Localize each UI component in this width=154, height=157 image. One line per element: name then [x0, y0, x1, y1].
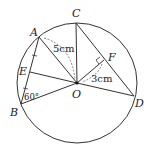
label-f: F — [107, 51, 116, 64]
measure-oa: 5cm — [53, 43, 75, 54]
tick-eb — [23, 88, 28, 89]
label-a: A — [29, 26, 38, 39]
label-o: O — [72, 88, 81, 101]
segment-oe — [30, 72, 77, 83]
label-c: C — [72, 7, 81, 20]
tick-ae — [32, 55, 37, 56]
label-e: E — [18, 65, 27, 78]
geometry-diagram: C A E B O F D 5cm 3cm 60° — [0, 0, 154, 157]
right-angle-mark-f — [96, 57, 100, 64]
measure-angle-b: 60° — [24, 92, 39, 102]
center-point-o — [75, 81, 78, 84]
segment-oc — [76, 23, 77, 83]
measure-of: 3cm — [91, 73, 113, 84]
label-d: D — [134, 97, 144, 110]
label-b: B — [9, 106, 18, 119]
